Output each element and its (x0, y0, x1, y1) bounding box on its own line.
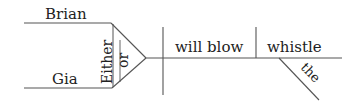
conjunction-word-2: or (115, 53, 131, 68)
sentence-diagram: Brian Gia Either or will blow whistle th… (0, 0, 358, 103)
object-word: whistle (267, 38, 322, 56)
fork-line-top (111, 23, 146, 58)
subject-word-1: Brian (45, 5, 87, 23)
verb-word: will blow (175, 38, 243, 56)
subject-word-2: Gia (52, 70, 78, 88)
conjunction-word-1: Either (99, 39, 115, 84)
